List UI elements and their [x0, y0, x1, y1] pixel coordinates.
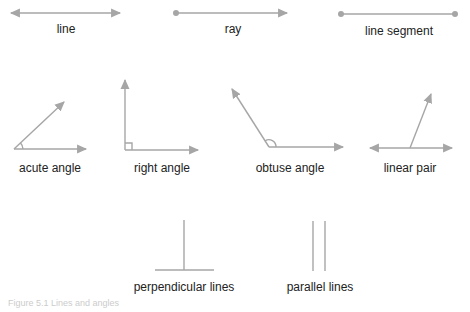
- label-right-angle: right angle: [134, 161, 190, 175]
- label-linear-pair: linear pair: [384, 161, 437, 175]
- label-line-segment: line segment: [365, 24, 433, 38]
- parallel-lines-figure: [313, 221, 325, 271]
- geometry-diagram: [0, 0, 470, 312]
- right-angle-figure: [125, 80, 198, 150]
- label-obtuse-angle: obtuse angle: [256, 161, 325, 175]
- label-ray: ray: [225, 22, 242, 36]
- obtuse-angle-figure: [232, 89, 343, 147]
- label-perpendicular-lines: perpendicular lines: [134, 280, 235, 294]
- line-segment-figure: [338, 11, 458, 17]
- perpendicular-lines-figure: [155, 220, 214, 270]
- linear-pair-figure: [370, 94, 452, 148]
- acute-angle-figure: [14, 102, 86, 149]
- figure-caption: Figure 5.1 Lines and angles: [8, 298, 119, 308]
- label-acute-angle: acute angle: [19, 161, 81, 175]
- label-line: line: [57, 22, 76, 36]
- label-parallel-lines: parallel lines: [287, 280, 354, 294]
- ray-figure: [173, 10, 287, 16]
